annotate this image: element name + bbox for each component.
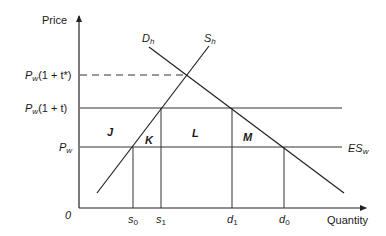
pw-t-label: Pw(1 + t) [25,102,67,116]
export-supply-label: ESw [348,142,370,156]
s1-label: s1 [156,213,167,227]
area-j-label: J [107,126,114,138]
d0-label: d0 [279,213,290,227]
x-axis-label: Quantity [327,214,368,226]
supply-label: Sh [204,32,216,46]
y-axis-label: Price [42,14,67,26]
area-m-label: M [243,131,253,143]
supply-curve [97,46,209,193]
demand-label: Dh [142,32,155,46]
origin-label: 0 [65,209,72,221]
s0-label: s0 [128,213,139,227]
area-l-label: L [192,127,199,139]
tariff-diagram: Price Quantity 0 Dh Sh ESw Pw(1 + t*) Pw… [0,0,386,236]
pw-label: Pw [59,141,73,155]
pw-t-star-label: Pw(1 + t*) [25,69,71,83]
area-k-label: K [145,134,154,146]
demand-curve [149,47,344,193]
d1-label: d1 [227,213,238,227]
